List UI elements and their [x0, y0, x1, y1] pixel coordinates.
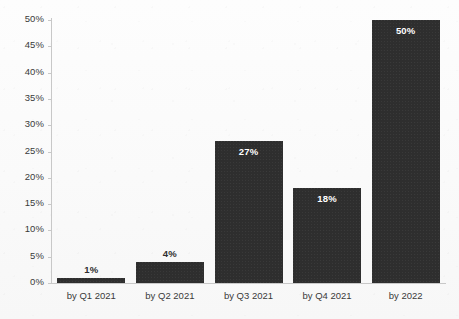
- bar[interactable]: [57, 278, 125, 283]
- bar-slot: 27%: [215, 20, 283, 283]
- bar[interactable]: [136, 262, 204, 283]
- x-axis-tick-label: by Q4 2021: [288, 290, 366, 301]
- y-axis-tick-label: 40%: [25, 66, 44, 77]
- y-axis-tick-label: 15%: [25, 197, 44, 208]
- bar-slot: 50%: [372, 20, 440, 283]
- bar[interactable]: 50%: [372, 20, 440, 283]
- y-axis-tick-label: 0%: [30, 276, 44, 287]
- bar-slot: 18%: [293, 20, 361, 283]
- chart-page: 0%5%10%15%20%25%30%35%40%45%50% 1%4%27%1…: [0, 0, 459, 319]
- bar-slot: 4%: [136, 20, 204, 283]
- bar-slot: 1%: [57, 20, 125, 283]
- x-axis-line: [51, 283, 446, 284]
- y-axis-tick-label: 50%: [25, 13, 44, 24]
- y-axis-tick-label: 5%: [30, 250, 44, 261]
- bar-value-label: 50%: [372, 25, 440, 36]
- y-axis-tick-mark: [48, 283, 52, 284]
- x-axis-tick-label: by Q3 2021: [210, 290, 288, 301]
- bar-value-label: 1%: [57, 264, 125, 275]
- y-axis-tick-label: 25%: [25, 145, 44, 156]
- y-axis-tick-label: 30%: [25, 118, 44, 129]
- bar[interactable]: 27%: [215, 141, 283, 283]
- y-axis-tick-label: 10%: [25, 223, 44, 234]
- plot-area: 1%4%27%18%50%: [52, 20, 445, 283]
- bar-value-label: 18%: [293, 193, 361, 204]
- bar[interactable]: 18%: [293, 188, 361, 283]
- bar-value-label: 4%: [136, 248, 204, 259]
- x-axis-tick-label: by Q1 2021: [52, 290, 130, 301]
- x-axis-tick-label: by 2022: [367, 290, 445, 301]
- y-axis-tick-label: 35%: [25, 92, 44, 103]
- x-axis-tick-label: by Q2 2021: [131, 290, 209, 301]
- y-axis-tick-label: 20%: [25, 171, 44, 182]
- bar-value-label: 27%: [215, 146, 283, 157]
- y-axis-tick-label: 45%: [25, 39, 44, 50]
